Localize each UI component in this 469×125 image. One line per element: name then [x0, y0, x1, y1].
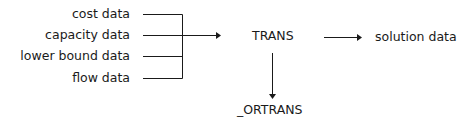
- arrowhead-to-trans: [216, 32, 221, 39]
- output-node-ortrans: _ORTRANS: [237, 103, 303, 117]
- output-node-solution: solution data: [375, 30, 457, 44]
- process-node-trans: TRANS: [252, 29, 294, 43]
- input-label-flow: flow data: [0, 71, 130, 85]
- arrowhead-to-ortrans: [269, 94, 276, 99]
- input-label-lower-bound: lower bound data: [0, 49, 130, 63]
- input-label-cost: cost data: [0, 7, 130, 21]
- arrowhead-to-solution: [357, 34, 362, 41]
- input-label-capacity: capacity data: [0, 28, 130, 42]
